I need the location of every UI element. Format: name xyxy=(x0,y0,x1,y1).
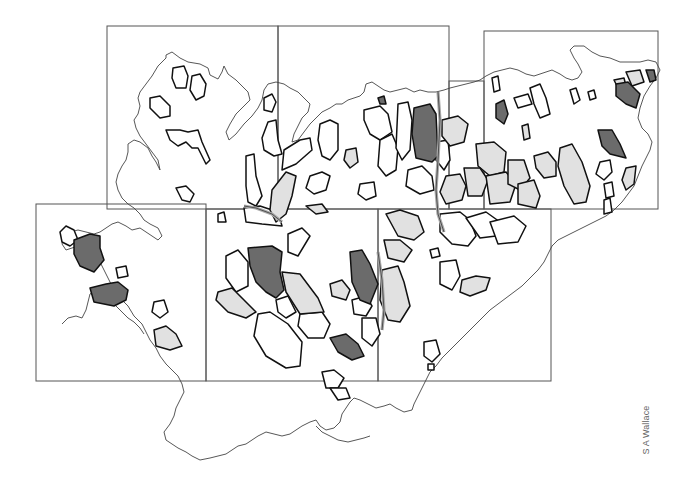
patch xyxy=(350,250,378,304)
patch xyxy=(74,234,104,272)
patch xyxy=(246,154,262,206)
patch xyxy=(588,90,596,100)
map-canvas: S A Wallace xyxy=(0,0,692,489)
patch xyxy=(176,186,194,202)
patch xyxy=(216,288,256,318)
patch xyxy=(362,318,380,346)
patch xyxy=(154,326,182,350)
patch xyxy=(430,248,440,258)
patch xyxy=(492,76,500,92)
patch xyxy=(522,124,530,140)
patch xyxy=(534,152,556,178)
patch xyxy=(318,120,338,160)
patch xyxy=(306,172,330,194)
patch xyxy=(152,300,168,318)
patch xyxy=(518,180,540,208)
patch xyxy=(116,266,128,278)
sheet-frames xyxy=(36,26,658,381)
patch xyxy=(596,160,612,180)
patch xyxy=(386,210,424,240)
patch xyxy=(604,182,614,198)
map-svg xyxy=(0,0,692,489)
patch xyxy=(412,104,438,162)
patch xyxy=(90,282,128,306)
coast-south xyxy=(164,364,412,460)
patch xyxy=(384,240,412,262)
patch xyxy=(190,74,206,100)
patch xyxy=(364,106,392,140)
patch xyxy=(646,70,656,82)
patch xyxy=(558,144,590,204)
patch xyxy=(306,204,328,214)
patch xyxy=(424,340,440,362)
patch xyxy=(604,198,612,214)
patch xyxy=(530,84,550,118)
patch xyxy=(330,388,350,400)
patch xyxy=(172,66,188,88)
patch xyxy=(570,88,580,104)
patch xyxy=(166,130,210,164)
patch xyxy=(248,246,284,298)
patch xyxy=(330,280,350,300)
patch xyxy=(616,82,640,108)
patch xyxy=(442,116,468,146)
patch xyxy=(322,370,344,388)
patch xyxy=(440,260,460,290)
patch xyxy=(514,94,532,108)
patch xyxy=(358,182,376,200)
patch xyxy=(378,134,398,176)
author-credit: S A Wallace xyxy=(641,395,655,465)
patch xyxy=(226,250,248,292)
patch xyxy=(298,312,330,338)
patch xyxy=(150,96,170,118)
patch xyxy=(344,148,358,168)
patch xyxy=(218,212,226,222)
patch xyxy=(428,364,434,370)
patch xyxy=(262,120,282,156)
patch xyxy=(496,100,508,124)
patch xyxy=(288,228,310,256)
patch xyxy=(598,130,626,158)
patch xyxy=(490,216,526,244)
patch xyxy=(254,312,302,368)
patch xyxy=(396,102,412,160)
patch xyxy=(378,96,386,104)
patch xyxy=(440,174,466,204)
patch xyxy=(460,276,490,296)
patch xyxy=(282,138,312,170)
patch xyxy=(264,94,276,112)
patch xyxy=(406,166,434,194)
patch xyxy=(330,334,364,360)
